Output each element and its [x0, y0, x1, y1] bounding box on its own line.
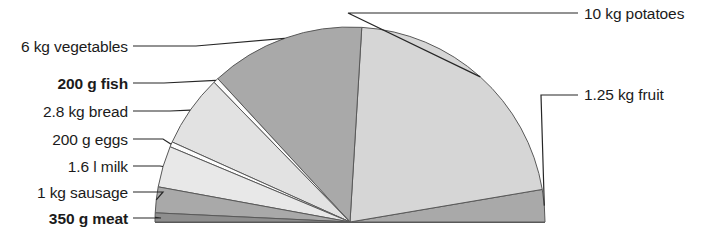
pie-slice-potatoes — [350, 27, 542, 222]
slice-label-fruit: 1.25 kg fruit — [584, 87, 664, 103]
leader-line-bread — [133, 110, 190, 111]
slice-label-fish: 200 g fish — [6, 76, 128, 92]
slice-label-vegetables: 6 kg vegetables — [6, 39, 128, 55]
slice-label-milk: 1.6 l milk — [6, 159, 128, 175]
slice-label-sausage: 1 kg sausage — [6, 185, 128, 201]
slice-label-bread: 2.8 kg bread — [6, 104, 128, 120]
leader-line-fish — [133, 80, 216, 83]
slice-label-meat: 350 g meat — [6, 211, 128, 227]
leader-line-meat — [133, 217, 161, 218]
slice-label-potatoes: 10 kg potatoes — [584, 6, 684, 22]
leader-line-vegetables — [133, 38, 285, 46]
slice-label-eggs: 200 g eggs — [6, 132, 128, 148]
semicircle-pie-chart-figure: 6 kg vegetables 200 g fish 2.8 kg bread … — [0, 0, 717, 236]
leader-line-fruit — [541, 95, 578, 206]
leader-line-eggs — [133, 139, 171, 144]
